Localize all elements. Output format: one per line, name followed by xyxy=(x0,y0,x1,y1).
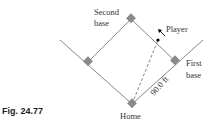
distance-label: 90.0 ft xyxy=(148,74,171,98)
first-base-label-line2: base xyxy=(186,70,201,80)
third-base-marker xyxy=(83,56,93,66)
second-base-label-line2: base xyxy=(94,18,109,28)
baseball-diagram: Second base Player First base Home 90.0 … xyxy=(0,0,216,128)
home-label: Home xyxy=(120,111,141,121)
figure-caption: Fig. 24.77 xyxy=(2,106,43,116)
second-base-label-line1: Second xyxy=(94,7,120,17)
left-foul-line xyxy=(60,40,132,104)
player-dot xyxy=(156,38,159,41)
first-base-label-line1: First xyxy=(186,58,202,68)
player-direction-arrow-icon xyxy=(158,29,165,36)
first-base-marker xyxy=(170,55,180,65)
home-plate-marker xyxy=(127,98,137,108)
player-label: Player xyxy=(166,24,188,34)
